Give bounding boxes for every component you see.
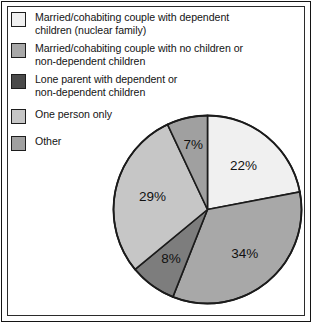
pie-slice-label: 22% [230,158,257,173]
legend-swatch-one-person-icon [11,109,26,124]
legend-item-label: One person only [35,108,112,121]
pie-slice-group [114,116,302,304]
legend-item-label: Married/cohabiting couple with dependent… [35,11,229,36]
legend-swatch-nuclear-family-icon [11,12,26,27]
legend-item: Lone parent with dependent or non-depend… [11,73,279,98]
legend-swatch-couple-no-children-icon [11,43,26,58]
legend-item: Married/cohabiting couple with no childr… [11,42,279,67]
pie-slice-label: 34% [231,246,258,261]
pie-chart: 22%34%8%29%7% [111,113,304,306]
legend-swatch-other-icon [11,136,26,151]
legend-item-label: Lone parent with dependent or non-depend… [35,73,177,98]
legend-item-label: Married/cohabiting couple with no childr… [35,42,243,67]
legend-item: Married/cohabiting couple with dependent… [11,11,279,36]
legend-swatch-lone-parent-icon [11,74,26,89]
pie-chart-svg: 22%34%8%29%7% [111,113,304,306]
figure-container: Married/cohabiting couple with dependent… [0,0,312,323]
legend-item-label: Other [35,135,61,148]
pie-slice-label: 7% [183,137,203,152]
pie-slice-label: 29% [139,189,166,204]
pie-slice-label: 8% [161,251,181,266]
